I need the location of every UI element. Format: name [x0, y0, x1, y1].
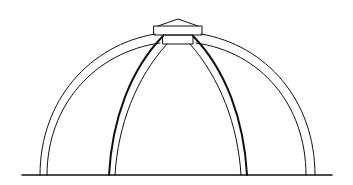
lantern-box — [154, 26, 202, 35]
outer-shell-arc — [40, 34, 315, 175]
inner-shell-arc — [47, 43, 306, 175]
lantern-roof — [158, 19, 198, 26]
drum-box — [163, 35, 193, 44]
dome-diagram — [0, 0, 353, 185]
